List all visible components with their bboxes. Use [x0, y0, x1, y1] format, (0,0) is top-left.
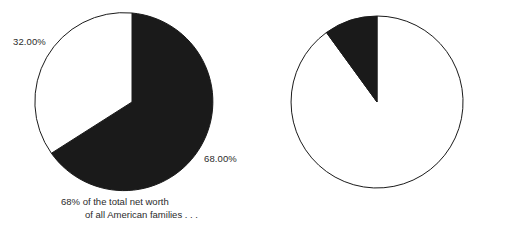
left-pie-caption-line-1: 68% of the total net worth [61, 196, 169, 207]
left-pie-caption: 68% of the total net worth of all Americ… [61, 196, 198, 221]
left-pie-label-68-percent: 68.00% [204, 153, 237, 164]
pie-chart-ownership-share: 10.00% 90.00% . . . is owned by just 10%… [255, 0, 505, 236]
pie-chart-net-worth-share: 32.00% 68.00% 68% of the total net worth… [0, 0, 255, 236]
left-pie-caption-line-2: of all American families . . . [61, 209, 198, 222]
left-pie-label-32-percent: 32.00% [13, 36, 46, 47]
two-pie-chart-figure: 32.00% 68.00% 68% of the total net worth… [0, 0, 505, 236]
right-pie-graphic [255, 0, 505, 236]
